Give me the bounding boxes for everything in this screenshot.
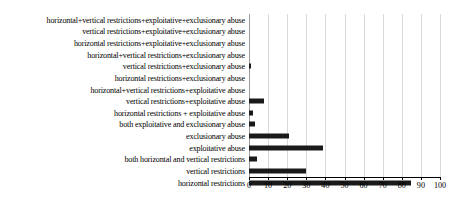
x-tick-mark-10 [268,177,269,180]
category-label: horizontal+vertical restrictions+exploit… [0,85,245,94]
chart-row: both horizontal and vertical restriction… [0,154,449,166]
x-tick-label: 70 [379,181,387,191]
chart-row: vertical restrictions+exclusionary abuse [0,61,449,73]
x-tick-mark-100 [440,177,441,180]
chart-row: vertical restrictions [0,165,449,177]
chart-row: horizontal+vertical restrictions+exploit… [0,14,449,26]
bar [249,157,257,162]
x-tick-mark-50 [345,177,346,180]
category-label: vertical restrictions+exclusionary abuse [0,62,245,71]
x-tick-label: 100 [434,181,446,191]
category-label: horizontal restrictions+exclusionary abu… [0,73,245,82]
category-label: exploitative abuse [0,143,245,152]
category-label: vertical restrictions [0,166,245,175]
chart-row: vertical restrictions+exploitative+exclu… [0,26,449,38]
x-tick-label: 40 [321,181,329,191]
x-tick-mark-20 [287,177,288,180]
x-tick-mark-70 [383,177,384,180]
category-label: both horizontal and vertical restriction… [0,155,245,164]
category-label: exclusionary abuse [0,132,245,141]
chart-row: vertical restrictions+exploitative abuse [0,95,449,107]
bar [249,145,323,150]
category-label: horizontal+vertical restrictions+exclusi… [0,50,245,59]
chart-row: horizontal restrictions+exclusionary abu… [0,72,449,84]
category-label: vertical restrictions+exploitative abuse [0,97,245,106]
category-label: vertical restrictions+exploitative+exclu… [0,27,245,36]
x-tick-label: 90 [417,181,425,191]
horizontal-bar-chart: horizontal+vertical restrictions+exploit… [0,0,449,202]
category-label: horizontal+vertical restrictions+exploit… [0,15,245,24]
x-tick-mark-80 [402,177,403,180]
bar [249,64,251,69]
bar [249,134,289,139]
chart-row: horizontal+vertical restrictions+exploit… [0,84,449,96]
x-tick-mark-60 [364,177,365,180]
x-tick-label: 10 [264,181,272,191]
bar [249,99,264,104]
x-tick-label: 20 [283,181,291,191]
chart-row: horizontal restrictions + exploitative a… [0,107,449,119]
chart-row: horizontal+vertical restrictions+exclusi… [0,49,449,61]
x-tick-label: 60 [360,181,368,191]
x-tick-mark-40 [325,177,326,180]
category-label: horizontal restrictions + exploitative a… [0,108,245,117]
bar-rows: horizontal+vertical restrictions+exploit… [0,14,449,177]
x-tick-mark-30 [306,177,307,180]
x-tick-label: 50 [340,181,348,191]
bar [249,110,253,115]
bar [249,180,411,185]
x-tick-label: 30 [302,181,310,191]
bar [249,168,306,173]
x-tick-label: 80 [398,181,406,191]
x-tick-mark-0 [249,177,250,180]
category-label: horizontal restrictions+exploitative+exc… [0,39,245,48]
chart-row: both exploitative and exclusionary abuse [0,119,449,131]
category-label: horizontal restrictions [0,178,245,187]
x-tick-label: 0 [247,181,251,191]
category-label: both exploitative and exclusionary abuse [0,120,245,129]
bar [249,122,255,127]
chart-row: exploitative abuse [0,142,449,154]
x-tick-mark-90 [421,177,422,180]
chart-row: horizontal restrictions+exploitative+exc… [0,37,449,49]
chart-row: exclusionary abuse [0,130,449,142]
